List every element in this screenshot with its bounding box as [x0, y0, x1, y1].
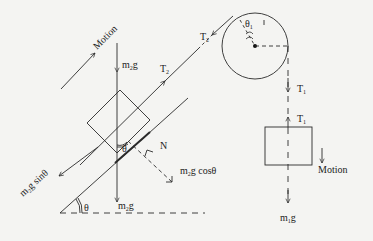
- motion-hanging-label: Motion: [318, 164, 347, 175]
- m2g-sin-down-incline: [59, 147, 98, 176]
- m2g-top-label: m2g: [122, 59, 138, 71]
- t1-lower-label: T1: [297, 113, 306, 125]
- theta-base-label: θ: [84, 202, 89, 213]
- block-m1: [265, 127, 312, 165]
- rope-incline-mid: [165, 49, 198, 81]
- incline-pulley-diagram: Motion m2g T2 T2 θ1 T1 T1 θ N m2g cosθ m…: [0, 0, 373, 241]
- rope-incline-upper: [212, 16, 233, 35]
- t2-upper-label: T2: [200, 31, 209, 43]
- block-m2: [87, 90, 150, 153]
- t1-upper-label: T1: [297, 83, 306, 95]
- pulley-rotation-icon: [246, 32, 253, 39]
- m2g-sin-force: [60, 150, 100, 176]
- m2g-sin-arrow-line: [60, 163, 115, 177]
- m2g-cos-label: m2g cosθ: [180, 165, 217, 177]
- motion-incline-label: Motion: [91, 23, 120, 52]
- m2g-sin-component: [61, 163, 115, 176]
- m2g-sin-vector: [0, 0, 100, 176]
- m1g-label: m1g: [280, 212, 296, 224]
- m2g-bottom-label: m2g: [118, 200, 134, 212]
- normal-arrowhead: [145, 150, 153, 156]
- t2-lower-label: T2: [160, 63, 169, 75]
- normal-label: N: [160, 140, 167, 151]
- theta-block-label: θ: [122, 143, 127, 154]
- motion-incline-arrow: [61, 53, 95, 89]
- m2g-sin-label: m2g sinθ: [17, 167, 51, 199]
- theta1-label: θ1: [245, 18, 253, 30]
